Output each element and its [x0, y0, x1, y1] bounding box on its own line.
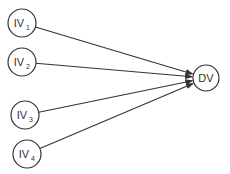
- arrow-iv4-to-dv: [40, 83, 193, 148]
- node-subscript: 1: [26, 24, 30, 31]
- node-iv2: IV2: [8, 48, 36, 76]
- node-label: DV: [198, 72, 214, 84]
- node-subscript: 4: [31, 155, 35, 162]
- arrow-iv1-to-dv: [35, 27, 192, 74]
- node-subscript: 2: [26, 63, 30, 70]
- node-label: IV: [14, 56, 25, 68]
- node-iv3: IV3: [11, 101, 39, 129]
- arrow-iv3-to-dv: [39, 81, 193, 112]
- node-dv: DV: [193, 65, 219, 91]
- node-iv4: IV4: [13, 140, 41, 168]
- arrow-iv2-to-dv: [36, 63, 192, 77]
- node-subscript: 3: [29, 116, 33, 123]
- node-label: IV: [17, 109, 28, 121]
- node-label: IV: [19, 148, 30, 160]
- node-iv1: IV1: [8, 9, 36, 37]
- node-label: IV: [14, 17, 25, 29]
- path-diagram: IV1IV2IV3IV4DV: [0, 0, 230, 174]
